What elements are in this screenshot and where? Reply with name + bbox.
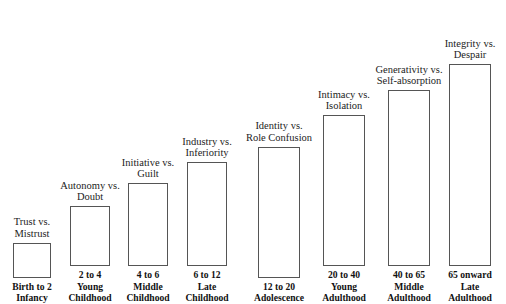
crisis-line-1: Identity vs. bbox=[246, 120, 312, 132]
age-line-3: Childhood bbox=[68, 292, 111, 304]
crisis-line-2: Inferiority bbox=[182, 147, 232, 159]
stage-bar bbox=[70, 206, 110, 266]
age-line-2: Middle bbox=[126, 281, 169, 293]
crisis-line-2: Guilt bbox=[122, 168, 175, 180]
age-line-1: 40 to 65 bbox=[387, 269, 431, 281]
age-line-3: Adulthood bbox=[322, 292, 366, 304]
crisis-line-1: Initiative vs. bbox=[122, 157, 175, 169]
stage-age-label: 6 to 12LateChildhood bbox=[185, 269, 228, 304]
crisis-line-2: Isolation bbox=[318, 100, 370, 112]
stage-column: Intimacy vs.Isolation20 to 40YoungAdulth… bbox=[323, 68, 365, 304]
age-line-2: Late bbox=[185, 281, 228, 293]
stage-age-label: 20 to 40YoungAdulthood bbox=[322, 269, 366, 304]
age-line-2: Middle bbox=[387, 281, 431, 293]
stage-age-label: 2 to 4YoungChildhood bbox=[68, 269, 111, 304]
stage-crisis-label: Generativity vs.Self-absorption bbox=[375, 64, 442, 88]
stage-age-label: 40 to 65MiddleAdulthood bbox=[387, 269, 431, 304]
stage-crisis-label: Integrity vs.Despair bbox=[445, 38, 496, 62]
crisis-line-2: Despair bbox=[445, 49, 496, 61]
stage-crisis-label: Autonomy vs.Doubt bbox=[60, 180, 120, 204]
age-line-3: Childhood bbox=[185, 292, 228, 304]
age-line-2: Young bbox=[68, 281, 111, 293]
stage-crisis-label: Industry vs.Inferiority bbox=[182, 136, 232, 160]
crisis-line-2: Mistrust bbox=[14, 228, 50, 240]
age-line-1: 6 to 12 bbox=[185, 269, 228, 281]
age-line-2: Infancy bbox=[12, 292, 51, 304]
stage-bar bbox=[13, 243, 51, 278]
age-line-1: 20 to 40 bbox=[322, 269, 366, 281]
age-line-1: Birth to 2 bbox=[12, 281, 51, 293]
stage-crisis-label: Initiative vs.Guilt bbox=[122, 157, 175, 181]
stage-age-label: 12 to 20Adolescence bbox=[254, 281, 304, 304]
stage-column: Initiative vs.Guilt4 to 6MiddleChildhood bbox=[128, 136, 168, 304]
age-line-1: 12 to 20 bbox=[254, 281, 304, 293]
age-line-2: Adolescence bbox=[254, 292, 304, 304]
crisis-line-1: Autonomy vs. bbox=[60, 180, 120, 192]
age-line-2: Young bbox=[322, 281, 366, 293]
crisis-line-1: Integrity vs. bbox=[445, 38, 496, 50]
stage-column: Industry vs.Inferiority6 to 12LateChildh… bbox=[187, 115, 227, 304]
erikson-stages-bar-chart: Trust vs.MistrustBirth to 2InfancyAutono… bbox=[0, 0, 506, 304]
stage-age-label: 4 to 6MiddleChildhood bbox=[126, 269, 169, 304]
stage-age-label: 65 onwardLateAdulthood bbox=[448, 269, 492, 304]
stage-bar bbox=[323, 115, 365, 266]
age-line-3: Adulthood bbox=[448, 292, 492, 304]
age-line-1: 4 to 6 bbox=[126, 269, 169, 281]
stage-crisis-label: Trust vs.Mistrust bbox=[14, 216, 50, 240]
age-line-1: 65 onward bbox=[448, 269, 492, 281]
crisis-line-1: Industry vs. bbox=[182, 136, 232, 148]
stage-bar bbox=[449, 64, 491, 266]
crisis-line-2: Doubt bbox=[60, 191, 120, 203]
age-line-1: 2 to 4 bbox=[68, 269, 111, 281]
crisis-line-1: Trust vs. bbox=[14, 216, 50, 228]
stage-age-label: Birth to 2Infancy bbox=[12, 281, 51, 304]
crisis-line-1: Generativity vs. bbox=[375, 64, 442, 76]
stage-crisis-label: Intimacy vs.Isolation bbox=[318, 89, 370, 113]
stage-bar bbox=[187, 162, 227, 266]
stage-column: Integrity vs.Despair65 onwardLateAdultho… bbox=[449, 17, 491, 304]
stage-crisis-label: Identity vs.Role Confusion bbox=[246, 120, 312, 144]
stage-bar bbox=[388, 90, 430, 266]
age-line-3: Adulthood bbox=[387, 292, 431, 304]
stage-column: Autonomy vs.Doubt2 to 4YoungChildhood bbox=[70, 159, 110, 304]
stage-bar bbox=[128, 183, 168, 266]
stage-column: Trust vs.MistrustBirth to 2Infancy bbox=[13, 184, 51, 304]
stage-column: Identity vs.Role Confusion12 to 20Adoles… bbox=[258, 88, 300, 304]
crisis-line-2: Self-absorption bbox=[375, 75, 442, 87]
stage-bar bbox=[258, 147, 300, 278]
crisis-line-2: Role Confusion bbox=[246, 132, 312, 144]
stage-column: Generativity vs.Self-absorption40 to 65M… bbox=[388, 43, 430, 304]
age-line-2: Late bbox=[448, 281, 492, 293]
crisis-line-1: Intimacy vs. bbox=[318, 89, 370, 101]
age-line-3: Childhood bbox=[126, 292, 169, 304]
